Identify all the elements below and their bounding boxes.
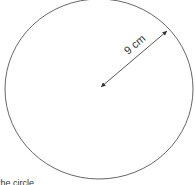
radius-label: 9 cm: [122, 32, 148, 57]
caption-text: the circle: [0, 178, 34, 185]
circle-diagram: 9 cm: [0, 0, 195, 185]
circle-outline: [5, 0, 193, 179]
